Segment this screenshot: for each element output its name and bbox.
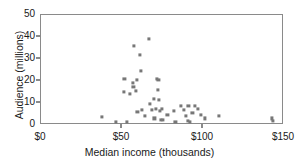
data-point xyxy=(114,120,117,123)
data-point xyxy=(158,98,161,101)
x-tick-label: $0 xyxy=(34,131,45,142)
data-point xyxy=(150,108,153,111)
data-point xyxy=(122,90,125,93)
data-point xyxy=(100,116,103,119)
data-point xyxy=(141,108,144,111)
data-point xyxy=(147,38,150,41)
data-point xyxy=(154,107,157,110)
x-tick-label: $100 xyxy=(191,131,213,142)
data-point xyxy=(134,89,137,92)
data-point xyxy=(152,97,155,100)
data-point xyxy=(271,119,274,122)
data-point xyxy=(136,110,139,113)
y-tick-label: 10 xyxy=(24,97,35,107)
y-tick-label: 40 xyxy=(24,31,35,41)
data-point xyxy=(182,108,185,111)
data-point xyxy=(166,114,169,117)
data-point xyxy=(218,115,221,118)
data-point xyxy=(129,93,132,96)
data-point xyxy=(172,109,175,112)
y-tick-label: 20 xyxy=(24,75,35,85)
scatter-chart-figure: Audience (millions) 01020304050 Median i… xyxy=(0,0,299,162)
data-point xyxy=(135,78,138,81)
x-tick-label: $150 xyxy=(272,131,294,142)
data-point xyxy=(153,117,156,120)
data-point xyxy=(157,78,160,81)
data-point xyxy=(123,77,126,80)
x-axis: Median income (thousands) $0$50$100$150 xyxy=(0,124,299,162)
data-point xyxy=(160,107,163,110)
data-point xyxy=(125,120,128,123)
data-points-layer xyxy=(41,15,282,123)
y-tick-label: 30 xyxy=(24,53,35,63)
x-tick-label: $50 xyxy=(113,131,130,142)
data-point xyxy=(156,88,159,91)
data-point xyxy=(184,115,187,118)
data-point xyxy=(188,120,191,123)
data-point xyxy=(191,111,194,114)
plot-area xyxy=(40,14,283,124)
data-point xyxy=(143,115,146,118)
x-axis-title: Median income (thousands) xyxy=(0,146,299,158)
data-point xyxy=(199,114,202,117)
data-point xyxy=(132,85,135,88)
x-tick-mark xyxy=(120,124,122,128)
data-point xyxy=(133,44,136,47)
data-point xyxy=(139,70,142,73)
data-point xyxy=(187,105,190,108)
data-point xyxy=(174,120,177,123)
data-point xyxy=(197,107,200,110)
y-tick-label: 50 xyxy=(24,9,35,19)
x-tick-mark xyxy=(201,124,203,128)
data-point xyxy=(162,118,165,121)
data-point xyxy=(203,117,206,120)
data-point xyxy=(138,53,141,56)
data-point xyxy=(148,103,151,106)
